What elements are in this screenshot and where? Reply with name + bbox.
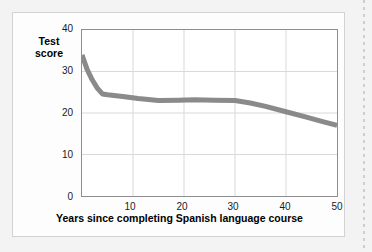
x-tick-label-10: 10 — [118, 201, 142, 212]
x-tick-label-40: 40 — [273, 201, 297, 212]
chart-svg — [82, 30, 337, 196]
y-tick-label-40: 40 — [53, 23, 73, 34]
x-tick-label-50: 50 — [325, 201, 349, 212]
y-tick-label-10: 10 — [53, 149, 73, 160]
plot-area — [81, 29, 338, 197]
y-axis-title: Test score — [23, 35, 75, 59]
y-axis-title-line-2: score — [23, 47, 75, 59]
x-axis-title: Years since completing Spanish language … — [13, 212, 346, 224]
y-axis-title-line-1: Test — [23, 35, 75, 47]
data-series-line — [82, 55, 337, 126]
chart-figure-panel: Test score 40 30 20 10 0 10 20 30 40 50 … — [12, 12, 345, 237]
y-tick-label-30: 30 — [53, 65, 73, 76]
x-tick-label-30: 30 — [221, 201, 245, 212]
page-edge-dotted-rule — [363, 0, 365, 252]
y-tick-label-0: 0 — [53, 191, 73, 202]
x-tick-label-20: 20 — [170, 201, 194, 212]
y-tick-label-20: 20 — [53, 107, 73, 118]
